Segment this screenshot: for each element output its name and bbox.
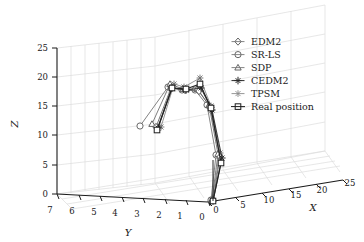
y-tick-label: 4 xyxy=(112,208,117,218)
legend-label-real-position: Real position xyxy=(251,101,314,112)
legend-item-srls[interactable]: SR-LS xyxy=(232,49,281,60)
x-tick-labels: 0 5 10 15 20 25 xyxy=(213,178,355,215)
diamond-icon xyxy=(232,38,245,45)
y-tick-label: 3 xyxy=(134,209,139,219)
triangle-icon xyxy=(232,64,245,70)
floor-grid xyxy=(57,151,340,209)
legend-item-real-position[interactable]: Real position xyxy=(231,101,314,112)
x-tick-label: 5 xyxy=(240,200,245,210)
y-axis-spine xyxy=(57,194,208,202)
z-axis-title: Z xyxy=(9,119,20,128)
circle-icon xyxy=(232,52,245,58)
figure-3d-trajectory-plot: 0 5 10 15 20 25 7 6 5 4 3 2 1 0 xyxy=(0,0,364,242)
asterisk-icon xyxy=(232,90,245,97)
legend-label-srls: SR-LS xyxy=(251,49,281,60)
legend-item-cedm2[interactable]: CEDM2 xyxy=(232,75,289,86)
x-tick-label: 25 xyxy=(345,178,356,188)
x-tick-label: 20 xyxy=(317,185,328,195)
x-tick-label: 15 xyxy=(291,190,302,200)
z-tick-label: 25 xyxy=(37,43,48,53)
y-tick-label: 2 xyxy=(156,210,161,220)
y-tick-label: 5 xyxy=(91,207,96,217)
x-tick-label: 10 xyxy=(264,195,275,205)
z-tick-labels: 0 5 10 15 20 25 xyxy=(37,43,48,199)
y-tick-label: 6 xyxy=(69,206,74,216)
legend-item-sdp[interactable]: SDP xyxy=(232,62,273,73)
y-tick-label: 0 xyxy=(199,212,204,222)
z-tick-label: 15 xyxy=(37,101,48,111)
z-tick-label: 10 xyxy=(37,130,48,140)
z-tick-label: 20 xyxy=(37,72,48,82)
y-axis-title: Y xyxy=(125,227,133,238)
z-tick-label: 0 xyxy=(43,189,48,199)
legend-label-cedm2: CEDM2 xyxy=(251,75,289,86)
z-axis-ticks xyxy=(52,48,57,194)
square-icon xyxy=(231,104,245,110)
legend-label-edm2: EDM2 xyxy=(251,36,281,47)
y-tick-label: 7 xyxy=(47,205,52,215)
left-wall-grid xyxy=(57,37,155,194)
legend-item-edm2[interactable]: EDM2 xyxy=(232,36,282,47)
x-tick-label: 0 xyxy=(213,205,218,215)
legend-label-tpsm: TPSM xyxy=(251,88,280,99)
legend-label-sdp: SDP xyxy=(251,62,272,73)
star-filled-icon xyxy=(232,77,245,85)
z-tick-label: 5 xyxy=(43,160,48,170)
legend-item-tpsm[interactable]: TPSM xyxy=(232,88,281,99)
y-tick-label: 1 xyxy=(177,211,182,221)
y-tick-labels: 7 6 5 4 3 2 1 0 xyxy=(47,205,204,222)
x-axis-title: X xyxy=(308,202,317,213)
legend: EDM2 SR-LS SDP xyxy=(231,36,314,112)
axis-lines xyxy=(44,48,343,202)
plot-canvas: 0 5 10 15 20 25 7 6 5 4 3 2 1 0 xyxy=(0,0,364,242)
